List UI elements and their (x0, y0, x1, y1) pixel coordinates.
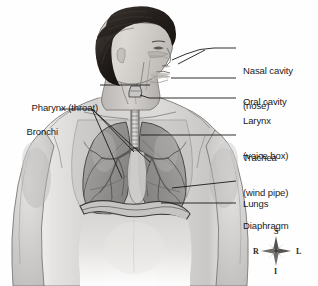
label-trachea-line1: Trachea (243, 152, 288, 164)
compass-label-superior: S (274, 228, 278, 236)
label-diaphragm: Diaphragm (243, 197, 289, 255)
label-bronchi: Bronchi (0, 103, 58, 161)
compass-label-left: L (296, 248, 301, 256)
label-diaphragm-line1: Diaphragm (243, 220, 289, 232)
respiratory-system-figure: Nasal cavity (nose) Oral cavity Larynx (… (0, 0, 318, 286)
label-larynx-line1: Larynx (243, 115, 288, 127)
compass-label-inferior: I (274, 268, 277, 276)
compass-label-right: R (253, 248, 259, 256)
label-bronchi-line1: Bronchi (0, 126, 58, 138)
